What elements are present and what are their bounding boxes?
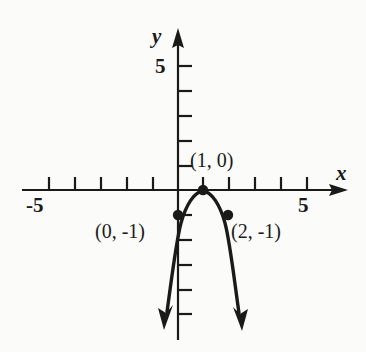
point-right: [223, 210, 233, 220]
y-tick-label-5: 5: [155, 56, 166, 77]
point-vertex: [198, 185, 208, 195]
y-axis-label: y: [152, 26, 161, 47]
graph-canvas: [0, 0, 366, 352]
x-tick-label-minus-5: -5: [26, 195, 44, 216]
point-label-vertex: (1, 0): [190, 150, 233, 170]
x-tick-label-5: 5: [298, 195, 309, 216]
x-axis-label: x: [336, 163, 347, 184]
point-label-left: (0, -1): [95, 221, 145, 241]
point-label-right: (2, -1): [231, 221, 281, 241]
parabola-curve: [158, 191, 248, 331]
parabola-figure: y x 5 5 -5 (1, 0) (0, -1) (2, -1): [0, 0, 366, 352]
point-left: [173, 210, 183, 220]
y-axis: [172, 28, 184, 340]
